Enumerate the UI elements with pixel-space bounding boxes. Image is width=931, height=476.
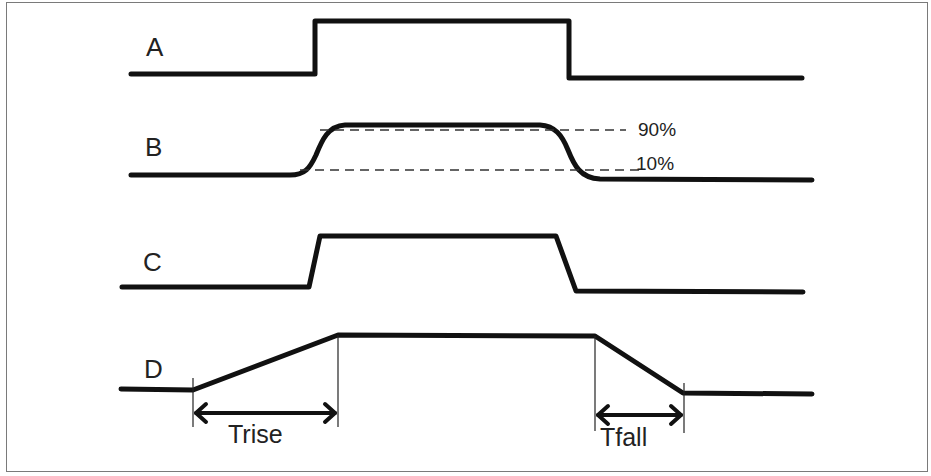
signal-d: D Trise Tfall [121, 335, 812, 451]
signal-c: C [122, 236, 803, 292]
signal-b-trace [131, 125, 812, 180]
signal-c-label: C [143, 247, 162, 277]
threshold-10-label: 10% [636, 153, 674, 174]
signal-a: A [131, 21, 802, 78]
signal-b-label: B [145, 132, 162, 162]
fall-time-label: Tfall [600, 423, 647, 451]
rise-time-label: Trise [228, 420, 283, 448]
signal-a-label: A [146, 32, 164, 62]
threshold-90-label: 90% [638, 119, 676, 140]
signal-c-trace [122, 236, 803, 292]
signal-a-trace [131, 21, 802, 78]
signal-d-trace [121, 335, 812, 394]
signal-b: B 90% 10% [131, 119, 812, 180]
waveform-diagram: A B 90% 10% C D Trise Tfall [0, 0, 931, 476]
signal-d-label: D [144, 354, 163, 384]
